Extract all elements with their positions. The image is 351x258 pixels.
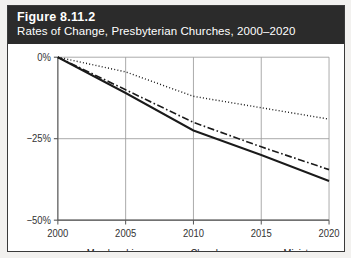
- y-axis-tick-labels: 0%−25%−50%: [26, 52, 51, 226]
- figure-header: Figure 8.11.2 Rates of Change, Presbyter…: [8, 6, 344, 44]
- figure-subtitle: Rates of Change, Presbyterian Churches, …: [17, 24, 344, 39]
- legend-label-ministers: Ministers: [284, 248, 322, 251]
- x-axis-tick-label: 2010: [183, 227, 204, 239]
- figure-container: Figure 8.11.2 Rates of Change, Presbyter…: [0, 0, 351, 258]
- x-axis-tick-label: 2020: [319, 227, 340, 239]
- legend-label-membership: Membership: [87, 248, 139, 251]
- figure-card: Figure 8.11.2 Rates of Change, Presbyter…: [7, 5, 345, 252]
- chart-legend: MembershipChurchesMinisters: [56, 248, 322, 251]
- y-axis-tick-label: −25%: [26, 133, 51, 145]
- axes: [54, 57, 329, 224]
- x-axis-tick-label: 2005: [115, 227, 136, 239]
- line-chart: 0%−25%−50% 20002005201020152020 Membersh…: [8, 44, 344, 251]
- y-axis-tick-label: 0%: [37, 52, 51, 64]
- legend-label-churches: Churches: [190, 248, 231, 251]
- x-axis-tick-label: 2000: [47, 227, 68, 239]
- x-axis-tick-labels: 20002005201020152020: [47, 227, 340, 239]
- figure-number: Figure 8.11.2: [17, 10, 344, 24]
- gridlines: [58, 57, 329, 220]
- chart-plot-area: 0%−25%−50% 20002005201020152020 Membersh…: [8, 44, 344, 251]
- y-axis-tick-label: −50%: [26, 214, 51, 226]
- x-axis-tick-label: 2015: [251, 227, 272, 239]
